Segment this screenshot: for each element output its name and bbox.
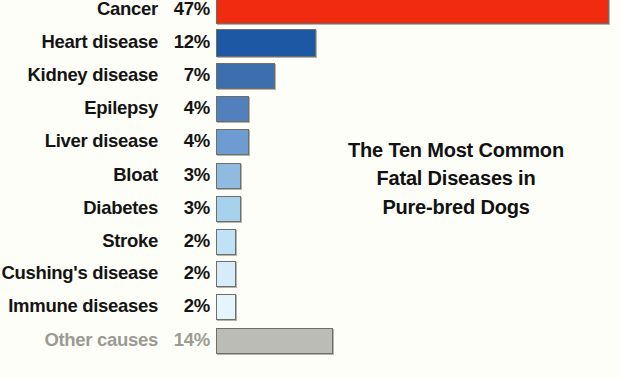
bar-track	[216, 226, 236, 257]
chart-row: Immune diseases2%	[0, 291, 620, 322]
value-label: 47%	[166, 0, 210, 19]
chart-title-line: The Ten Most Common	[294, 136, 618, 164]
category-label: Immune diseases	[8, 297, 158, 316]
category-label: Bloat	[113, 166, 158, 185]
category-label: Stroke	[102, 232, 158, 251]
chart-title-line: Pure-bred Dogs	[294, 193, 618, 221]
row-label-group: Cancer47%	[0, 0, 210, 25]
bar	[216, 29, 316, 57]
chart-row: Kidney disease7%	[0, 60, 620, 91]
bar	[216, 294, 236, 320]
bar	[216, 163, 241, 189]
bar	[216, 63, 275, 89]
row-label-group: Diabetes3%	[0, 193, 210, 224]
bar-track	[216, 0, 609, 25]
category-label: Cushing's disease	[1, 264, 158, 283]
value-label: 2%	[166, 232, 210, 251]
bar	[216, 261, 236, 287]
value-label: 2%	[166, 297, 210, 316]
row-label-group: Bloat3%	[0, 160, 210, 191]
row-label-group: Epilepsy4%	[0, 93, 210, 124]
category-label: Liver disease	[45, 132, 158, 151]
chart-row: Other causes14%	[0, 325, 620, 356]
bar-track	[216, 93, 249, 124]
bar-track	[216, 126, 249, 157]
chart-row: Epilepsy4%	[0, 93, 620, 124]
value-label: 3%	[166, 166, 210, 185]
chart-row: Stroke2%	[0, 226, 620, 257]
row-label-group: Other causes14%	[0, 325, 210, 356]
row-label-group: Immune diseases2%	[0, 291, 210, 322]
bar-track	[216, 60, 275, 91]
chart-row: Heart disease12%	[0, 27, 620, 58]
bar-track	[216, 291, 236, 322]
chart-row: Cancer47%	[0, 0, 620, 25]
bar	[216, 0, 609, 24]
value-label: 14%	[166, 331, 210, 350]
row-label-group: Stroke2%	[0, 226, 210, 257]
category-label: Cancer	[97, 0, 158, 19]
bar-track	[216, 325, 333, 356]
bar-track	[216, 258, 236, 289]
row-label-group: Heart disease12%	[0, 27, 210, 58]
category-label: Diabetes	[83, 199, 158, 218]
category-label: Kidney disease	[27, 66, 158, 85]
bar	[216, 196, 241, 222]
bar-track	[216, 193, 241, 224]
category-label: Heart disease	[42, 33, 158, 52]
row-label-group: Kidney disease7%	[0, 60, 210, 91]
bar	[216, 328, 333, 354]
value-label: 12%	[166, 33, 210, 52]
bar	[216, 229, 236, 255]
chart-title: The Ten Most CommonFatal Diseases inPure…	[294, 136, 618, 221]
value-label: 3%	[166, 199, 210, 218]
chart-title-line: Fatal Diseases in	[294, 164, 618, 192]
chart-container: Cancer47%Heart disease12%Kidney disease7…	[0, 0, 620, 378]
value-label: 7%	[166, 66, 210, 85]
bar-track	[216, 27, 316, 58]
value-label: 4%	[166, 132, 210, 151]
chart-row: Cushing's disease2%	[0, 258, 620, 289]
bar	[216, 129, 249, 155]
row-label-group: Liver disease4%	[0, 126, 210, 157]
value-label: 2%	[166, 264, 210, 283]
category-label: Epilepsy	[84, 99, 158, 118]
row-label-group: Cushing's disease2%	[0, 258, 210, 289]
value-label: 4%	[166, 99, 210, 118]
category-label: Other causes	[44, 331, 158, 350]
bar-track	[216, 160, 241, 191]
bar	[216, 96, 249, 122]
